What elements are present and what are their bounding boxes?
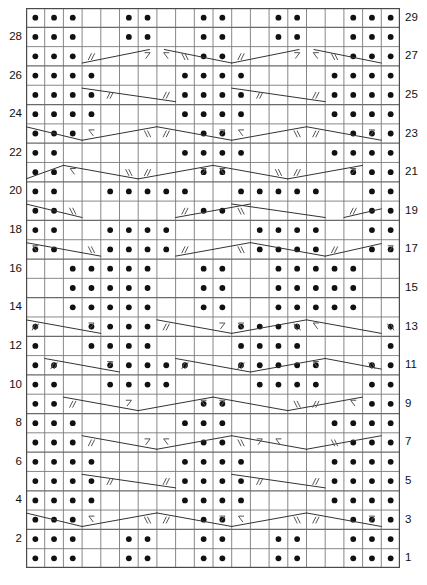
purl-dot [32, 15, 38, 21]
purl-dot [145, 266, 151, 272]
purl-dot [369, 536, 375, 542]
row-label-left-20: 20 [9, 184, 22, 196]
purl-dot [182, 73, 188, 79]
purl-dot [32, 536, 38, 542]
purl-dot [201, 34, 207, 40]
purl-dot [294, 285, 300, 291]
purl-dot [294, 34, 300, 40]
purl-dot [332, 266, 338, 272]
purl-dot [89, 266, 95, 272]
purl-dot [276, 285, 282, 291]
purl-dot [350, 478, 356, 484]
purl-dot [201, 285, 207, 291]
purl-dot [369, 169, 375, 175]
purl-dot [332, 498, 338, 504]
purl-dot [369, 73, 375, 79]
purl-dot [32, 73, 38, 79]
purl-dot [350, 555, 356, 561]
purl-dot [294, 227, 300, 233]
purl-dot [369, 53, 375, 59]
purl-dot [201, 266, 207, 272]
purl-dot [182, 111, 188, 117]
purl-dot [388, 53, 394, 59]
purl-dot [51, 440, 57, 446]
purl-dot [126, 343, 132, 349]
row-label-right-3: 3 [405, 513, 411, 525]
purl-dot [126, 362, 132, 368]
purl-dot [107, 189, 113, 195]
purl-dot [219, 478, 225, 484]
purl-dot [313, 189, 319, 195]
purl-dot [369, 420, 375, 426]
purl-dot [350, 73, 356, 79]
purl-dot [369, 15, 375, 21]
purl-dot [32, 150, 38, 156]
purl-dot [145, 324, 151, 330]
row-label-left-28: 28 [9, 30, 22, 42]
purl-dot [219, 420, 225, 426]
chart-grid[interactable] [26, 8, 400, 568]
purl-dot [276, 15, 282, 21]
purl-dot [313, 266, 319, 272]
purl-dot [332, 420, 338, 426]
purl-dot [107, 382, 113, 388]
row-label-left-8: 8 [16, 416, 22, 428]
purl-dot [350, 536, 356, 542]
purl-dot [219, 285, 225, 291]
row-label-right-11: 11 [405, 358, 417, 370]
purl-dot [219, 266, 225, 272]
purl-dot [182, 478, 188, 484]
purl-dot [70, 498, 76, 504]
purl-dot [70, 304, 76, 310]
purl-dot [201, 420, 207, 426]
purl-dot [388, 362, 394, 368]
row-label-left-22: 22 [9, 146, 22, 158]
purl-dot [51, 150, 57, 156]
purl-dot [369, 478, 375, 484]
row-labels-left: 246810121416182022242628 [0, 8, 26, 568]
purl-dot [32, 169, 38, 175]
purl-dot [294, 266, 300, 272]
purl-dot [201, 459, 207, 465]
purl-dot [238, 111, 244, 117]
purl-dot [70, 15, 76, 21]
purl-dot [369, 498, 375, 504]
row-label-left-12: 12 [9, 339, 22, 351]
row-label-left-2: 2 [16, 532, 22, 544]
purl-dot [51, 53, 57, 59]
purl-dot [145, 382, 151, 388]
purl-dot [257, 246, 263, 252]
purl-dot [126, 15, 132, 21]
purl-dot [145, 304, 151, 310]
purl-dot [107, 324, 113, 330]
purl-dot [51, 189, 57, 195]
purl-dot [89, 92, 95, 98]
purl-dot [350, 15, 356, 21]
purl-dot [388, 459, 394, 465]
row-label-right-29: 29 [405, 11, 418, 23]
purl-dot [145, 15, 151, 21]
purl-dot [70, 420, 76, 426]
purl-dot [332, 304, 338, 310]
purl-dot [350, 304, 356, 310]
purl-dot [107, 227, 113, 233]
purl-dot [145, 246, 151, 252]
purl-dot [32, 420, 38, 426]
purl-dot [350, 459, 356, 465]
purl-dot [32, 34, 38, 40]
purl-dot [107, 304, 113, 310]
purl-dot [163, 382, 169, 388]
purl-dot [201, 498, 207, 504]
purl-dot [32, 517, 38, 523]
purl-dot [219, 73, 225, 79]
purl-dot [51, 459, 57, 465]
purl-dot [89, 304, 95, 310]
purl-dot [32, 362, 38, 368]
purl-dot [388, 169, 394, 175]
row-label-left-4: 4 [16, 493, 22, 505]
purl-dot [145, 34, 151, 40]
purl-dot [388, 111, 394, 117]
purl-dot [70, 517, 76, 523]
purl-dot [257, 382, 263, 388]
purl-dot [126, 266, 132, 272]
